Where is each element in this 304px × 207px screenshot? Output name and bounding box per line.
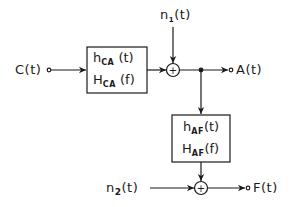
- diagram-lines: + +: [0, 0, 304, 207]
- input-n1-name: n: [160, 7, 169, 22]
- block-af-H: H: [182, 141, 192, 156]
- input-label-n1: n1(t): [160, 8, 191, 27]
- block-af-h-sub: AF: [191, 127, 204, 136]
- input-n2-name: n: [106, 180, 115, 195]
- block-ca-h: h: [93, 50, 101, 65]
- input-terminal-c: [47, 68, 51, 72]
- block-af-line1: hAF(t): [183, 120, 219, 139]
- summer-2-plus: +: [197, 183, 205, 194]
- input-label-n2: n2(t): [106, 181, 138, 199]
- block-ca-H-sub: CA: [103, 80, 116, 89]
- input-c-name: C: [15, 62, 25, 77]
- block-ca-h-sub: CA: [101, 58, 114, 67]
- summer-1-plus: +: [169, 65, 177, 76]
- block-ca-H: H: [93, 72, 103, 87]
- input-c-arg: (t): [25, 62, 42, 77]
- input-n2-arg: (t): [122, 180, 139, 195]
- block-af-h-arg: (t): [204, 119, 219, 134]
- block-af-H-arg: (f): [204, 141, 219, 156]
- output-terminal-f: [246, 186, 250, 190]
- input-label-c: C(t): [15, 63, 41, 77]
- block-ca-h-arg: (t): [118, 50, 133, 65]
- output-label-f: F(t): [253, 181, 278, 195]
- block-af-H-sub: AF: [192, 149, 205, 158]
- block-ca-line2: HCA (f): [93, 73, 135, 92]
- block-ca-line1: hCA (t): [93, 51, 134, 70]
- output-f-name: F: [253, 180, 261, 195]
- block-ca-H-arg: (f): [120, 72, 135, 87]
- input-n2-sub: 2: [115, 187, 122, 197]
- output-a-name: A: [236, 62, 245, 77]
- output-f-arg: (t): [261, 180, 278, 195]
- output-label-a: A(t): [236, 63, 262, 77]
- output-a-arg: (t): [245, 62, 262, 77]
- block-af-h: h: [183, 119, 191, 134]
- output-terminal-a: [229, 68, 233, 72]
- input-n1-arg: (t): [174, 7, 191, 22]
- block-af-line2: HAF(f): [182, 142, 219, 161]
